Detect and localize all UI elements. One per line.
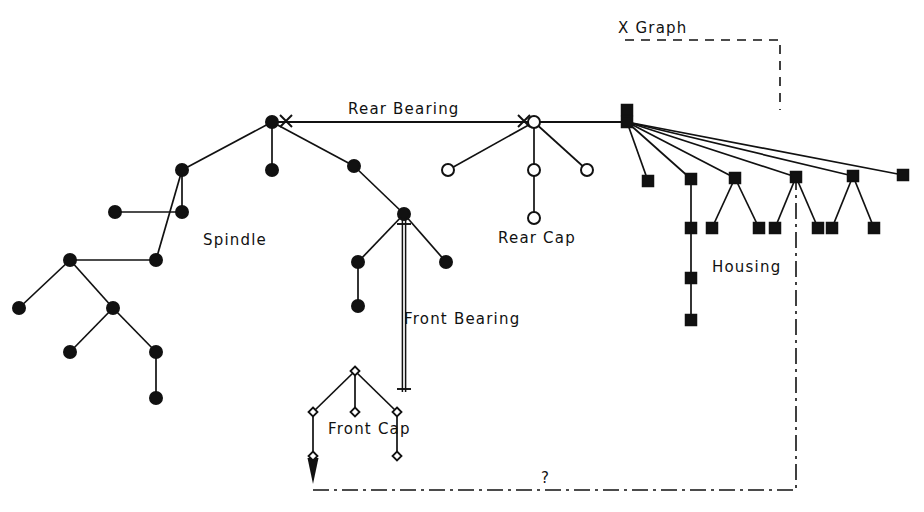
- assembly-hierarchy-svg: X GraphRear BearingSpindleRear CapHousin…: [0, 0, 924, 512]
- spindle-node[interactable]: [150, 392, 162, 404]
- spindle-node[interactable]: [348, 160, 360, 172]
- diagram-canvas: X GraphRear BearingSpindleRear CapHousin…: [0, 0, 924, 512]
- rear-cap-node[interactable]: [528, 212, 540, 224]
- label-front-cap: Front Cap: [328, 420, 411, 438]
- spindle-node[interactable]: [13, 302, 25, 314]
- label-layer: X GraphRear BearingSpindleRear CapHousin…: [203, 19, 781, 487]
- housing-node[interactable]: [622, 105, 633, 116]
- housing-node[interactable]: [754, 223, 765, 234]
- housing-edge: [853, 176, 874, 228]
- spindle-edge: [70, 308, 113, 352]
- spindle-node[interactable]: [150, 346, 162, 358]
- spindle-node[interactable]: [176, 206, 188, 218]
- spindle-node[interactable]: [109, 206, 121, 218]
- spindle-edge: [70, 260, 113, 308]
- housing-node[interactable]: [686, 174, 697, 185]
- spindle-node[interactable]: [64, 254, 76, 266]
- label-front-bearing: Front Bearing: [404, 310, 520, 328]
- front-cap-edge: [355, 371, 397, 412]
- housing-node[interactable]: [827, 223, 838, 234]
- spindle-node[interactable]: [398, 208, 410, 220]
- housing-edge: [712, 178, 735, 228]
- housing-node[interactable]: [813, 223, 824, 234]
- housing-edge: [832, 176, 853, 228]
- housing-fan-edge: [627, 122, 853, 176]
- label-spindle: Spindle: [203, 231, 267, 249]
- housing-edge: [775, 177, 796, 228]
- spindle-node[interactable]: [352, 256, 364, 268]
- spindle-node[interactable]: [440, 256, 452, 268]
- housing-node[interactable]: [770, 223, 781, 234]
- housing-node[interactable]: [707, 223, 718, 234]
- housing-node[interactable]: [686, 273, 697, 284]
- rear-cap-edge: [534, 122, 587, 170]
- spindle-edge: [354, 166, 404, 214]
- spindle-edge: [19, 260, 70, 308]
- rear-cap-node[interactable]: [528, 116, 540, 128]
- housing-node[interactable]: [869, 223, 880, 234]
- spindle-node[interactable]: [150, 254, 162, 266]
- housing-node[interactable]: [730, 173, 741, 184]
- spindle-node[interactable]: [64, 346, 76, 358]
- spindle-edge: [182, 122, 272, 170]
- housing-node[interactable]: [622, 117, 633, 128]
- housing-node[interactable]: [791, 172, 802, 183]
- label-rear-bearing: Rear Bearing: [348, 100, 460, 118]
- spindle-node[interactable]: [107, 302, 119, 314]
- front-cap-node[interactable]: [351, 408, 360, 417]
- label-rear-cap: Rear Cap: [498, 229, 576, 247]
- edge-layer: [19, 122, 903, 456]
- housing-node[interactable]: [686, 315, 697, 326]
- label-housing: Housing: [712, 258, 781, 276]
- spindle-node[interactable]: [266, 116, 278, 128]
- spindle-node[interactable]: [266, 164, 278, 176]
- housing-node[interactable]: [898, 170, 909, 181]
- x-graph-bracket: [625, 40, 780, 110]
- housing-node[interactable]: [686, 223, 697, 234]
- rear-cap-node[interactable]: [442, 164, 454, 176]
- rear-cap-node[interactable]: [528, 164, 540, 176]
- housing-node[interactable]: [643, 176, 654, 187]
- spindle-node[interactable]: [176, 164, 188, 176]
- housing-node[interactable]: [848, 171, 859, 182]
- housing-edge: [735, 178, 759, 228]
- rear-cap-node[interactable]: [581, 164, 593, 176]
- spindle-edge: [272, 122, 354, 166]
- rear-cap-edge: [448, 122, 534, 170]
- spindle-edge: [358, 214, 404, 262]
- housing-edge: [796, 177, 818, 228]
- label-question: ?: [541, 469, 550, 487]
- arrow-head-icon: [308, 458, 319, 484]
- spindle-edge: [404, 214, 446, 262]
- front-cap-node[interactable]: [393, 452, 402, 461]
- spindle-edge: [113, 308, 156, 352]
- label-x-graph: X Graph: [618, 19, 687, 37]
- spindle-node[interactable]: [352, 300, 364, 312]
- front-cap-edge: [313, 371, 355, 412]
